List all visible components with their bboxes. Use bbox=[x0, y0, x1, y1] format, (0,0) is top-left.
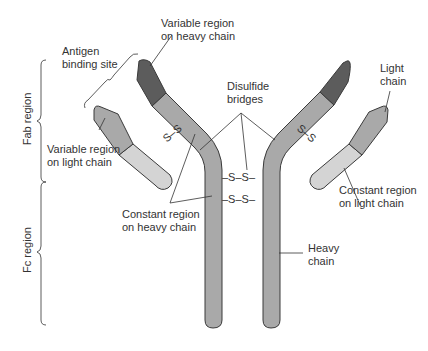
label-line: Variable region bbox=[47, 143, 120, 156]
label-line: Constant region bbox=[122, 208, 200, 221]
left-light-constant bbox=[119, 144, 172, 189]
label-line: on light chain bbox=[339, 197, 417, 210]
label-line: on light chain bbox=[47, 156, 120, 169]
label-line: Light bbox=[380, 62, 406, 75]
left-heavy-chain bbox=[137, 60, 222, 328]
label-fab-region: Fab region bbox=[21, 89, 33, 149]
fab-region-brace bbox=[37, 60, 46, 182]
label-variable-heavy: Variable region on heavy chain bbox=[161, 17, 235, 43]
label-line: on heavy chain bbox=[161, 30, 235, 43]
label-line: Constant region bbox=[339, 184, 417, 197]
label-heavy-chain: Heavy chain bbox=[308, 242, 339, 268]
disulfide-bond-hinge-2: –S–S– bbox=[222, 194, 255, 205]
disulfide-bond-hinge-1: –S–S– bbox=[222, 172, 255, 183]
label-line: bridges bbox=[227, 93, 269, 106]
right-light-variable bbox=[349, 106, 388, 155]
label-antigen-binding-site: Antigen binding site bbox=[62, 45, 118, 71]
label-constant-light: Constant region on light chain bbox=[339, 184, 417, 210]
label-line: Variable region bbox=[161, 17, 235, 30]
fc-region-brace bbox=[37, 182, 46, 325]
label-fc-region: Fc region bbox=[21, 220, 33, 280]
label-variable-light: Variable region on light chain bbox=[47, 143, 120, 169]
label-light-chain: Light chain bbox=[380, 62, 406, 88]
label-line: Heavy bbox=[308, 242, 339, 255]
label-line: Disulfide bbox=[227, 80, 269, 93]
label-disulfide-bridges: Disulfide bridges bbox=[227, 80, 269, 106]
right-light-chain bbox=[310, 106, 388, 189]
label-line: binding site bbox=[62, 58, 118, 71]
right-heavy-chain bbox=[263, 61, 350, 328]
label-constant-heavy: Constant region on heavy chain bbox=[122, 208, 200, 234]
label-line: on heavy chain bbox=[122, 221, 200, 234]
label-line: chain bbox=[308, 255, 339, 268]
label-line: chain bbox=[380, 75, 406, 88]
label-line: Antigen bbox=[62, 45, 118, 58]
right-light-constant bbox=[310, 144, 362, 189]
